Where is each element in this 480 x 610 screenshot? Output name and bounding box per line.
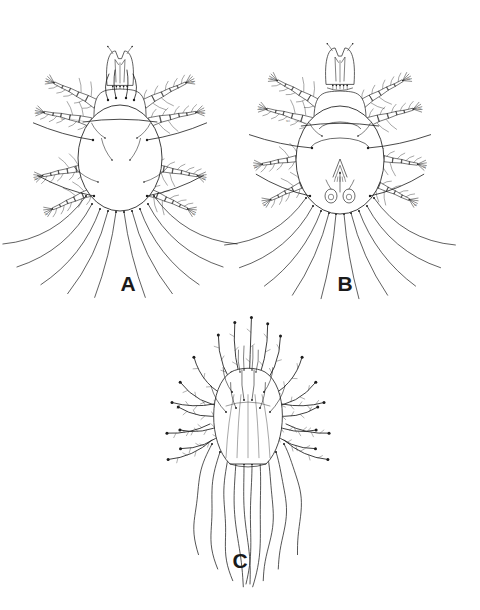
seta-tip-bead xyxy=(322,401,325,404)
seta-tip-bead xyxy=(167,458,170,461)
seta-tip-bead xyxy=(179,447,182,450)
seta-tip-bead xyxy=(233,321,236,324)
palp-tip xyxy=(131,46,132,47)
seta-tip-bead xyxy=(328,432,331,435)
seta-base xyxy=(111,159,113,161)
seta-base xyxy=(369,195,371,197)
leg-tip-micro-label: ta xyxy=(201,111,204,115)
seta-tip-bead xyxy=(314,381,317,384)
seta-tip-bead xyxy=(314,447,317,450)
seta-base xyxy=(239,371,240,372)
seta-base xyxy=(129,159,131,161)
palp-tip xyxy=(107,46,108,47)
median-seta-base xyxy=(339,172,341,174)
seta-base xyxy=(93,195,95,197)
seta-base xyxy=(136,137,138,139)
seta-base xyxy=(255,371,256,372)
seta-base xyxy=(92,139,94,141)
seta-base xyxy=(243,369,244,370)
leg-tip-micro-label: ta xyxy=(414,203,417,207)
seta-tip-bead xyxy=(250,316,253,319)
caudal-seta-base xyxy=(91,203,93,205)
caudal-seta-base xyxy=(373,197,375,199)
seta-base xyxy=(97,181,99,183)
leg-tip-micro-label: ta xyxy=(259,107,262,111)
leg-tip-micro-label: ta xyxy=(45,212,48,216)
leg-tip-micro-label: ta xyxy=(407,77,410,81)
leg-tip-micro-label: ta xyxy=(192,212,195,216)
seta-tip-bead xyxy=(217,333,220,336)
seta-tip-bead xyxy=(179,381,182,384)
seta-base xyxy=(146,139,148,141)
leg-tip-micro-label: ta xyxy=(36,111,39,115)
seta-base xyxy=(311,147,313,149)
leg-tip-micro-label: ta xyxy=(254,165,257,169)
whip-seta-base xyxy=(283,443,285,445)
seta-tip-bead xyxy=(326,458,329,461)
seta-base xyxy=(367,147,369,149)
seta-base xyxy=(251,399,253,401)
caudal-seta-base xyxy=(305,197,307,199)
seta-tip-bead xyxy=(301,356,304,359)
plate-background xyxy=(0,0,480,610)
caudal-seta-base xyxy=(115,211,117,213)
mite-taxonomic-plate: tatatatatatatatasci tatatatatatatatasci … xyxy=(0,0,480,610)
caudal-seta-base xyxy=(131,210,133,212)
seta-base xyxy=(357,135,359,137)
seta-base xyxy=(321,135,323,137)
caudal-seta-base xyxy=(153,195,155,197)
seta-base xyxy=(251,369,252,370)
leg-tip-micro-label: ta xyxy=(418,107,421,111)
leg-tip-micro-label: ta xyxy=(191,80,194,84)
caudal-seta-base xyxy=(85,195,87,197)
seta-tip-bead xyxy=(171,401,174,404)
caudal-seta-base xyxy=(320,210,322,212)
palp-tip xyxy=(327,43,328,44)
panel-label-b: B xyxy=(337,272,352,295)
seta-base xyxy=(143,181,145,183)
larva-body-group xyxy=(214,368,283,467)
seta-tip-bead xyxy=(165,432,168,435)
panel-label-c: C xyxy=(232,549,247,572)
leg-tip-micro-label: ta xyxy=(270,77,273,81)
caudal-seta-base xyxy=(366,205,368,207)
micro-label: sci xyxy=(61,117,65,121)
leg-tip-micro-label: ta xyxy=(203,177,206,181)
seta-base xyxy=(243,399,245,401)
seta-base xyxy=(225,411,227,413)
seta-base xyxy=(146,195,148,197)
seta-tip-bead xyxy=(266,322,269,325)
seta-base xyxy=(309,195,311,197)
whip-seta-base xyxy=(211,443,213,445)
seta-base xyxy=(259,407,261,409)
leg-tip-micro-label: ta xyxy=(46,80,49,84)
panel-label-a: A xyxy=(120,272,135,295)
caudal-seta-base xyxy=(123,211,125,213)
seta-tip-bead xyxy=(192,356,195,359)
seta-tip-bead xyxy=(279,335,282,338)
seta-base xyxy=(133,99,135,101)
caudal-seta-base xyxy=(99,208,101,210)
leg-tip-micro-label: ta xyxy=(34,177,37,181)
seta-base xyxy=(269,411,271,413)
seta-tip-bead xyxy=(315,429,318,432)
seta-base xyxy=(115,97,117,99)
leg-tip-micro-label: ta xyxy=(423,165,426,169)
palp-tip xyxy=(352,43,353,44)
caudal-seta-base xyxy=(358,210,360,212)
caudal-seta-base xyxy=(107,210,109,212)
caudal-seta-base xyxy=(147,203,149,205)
leg-tip-micro-label: ta xyxy=(263,203,266,207)
micro-label: sci xyxy=(286,119,290,123)
seta-base xyxy=(235,407,237,409)
seta-base xyxy=(125,97,127,99)
caudal-seta-base xyxy=(139,208,141,210)
caudal-seta-base xyxy=(312,205,314,207)
seta-base xyxy=(104,137,106,139)
seta-tip-bead xyxy=(316,406,319,409)
seta-base xyxy=(107,99,109,101)
